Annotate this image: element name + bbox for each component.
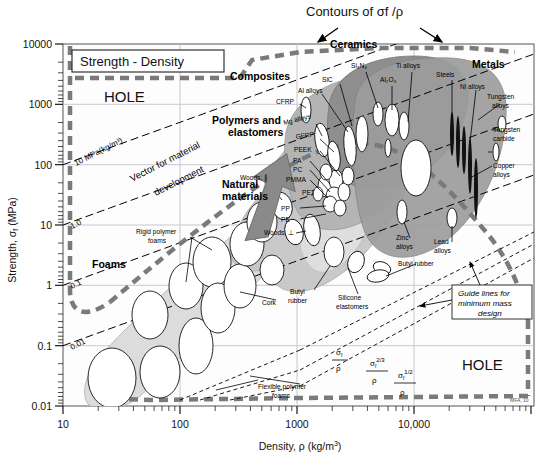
ytick-1: 1: [46, 279, 52, 291]
material-label-ni-alloys: Ni alloys: [460, 83, 486, 91]
material-label-al-alloys: Al alloys: [298, 87, 323, 95]
material-label-concrete: Butyl rubber: [398, 260, 434, 268]
material-label-pa: PA: [293, 157, 302, 164]
material-label-woods-parallel: Woods, ∥: [240, 174, 268, 182]
material-label-flex-foams-l1: Flexible polymer: [258, 383, 307, 391]
ashby-strength-density-chart: Contours of σf /ρ Strength - Density HOL…: [0, 0, 551, 458]
material-label-zinc-l1: Zinc: [396, 234, 409, 241]
material-label-copper-alloys-l1: Copper: [493, 162, 515, 170]
material-label-silicone-l1: Silicone: [338, 294, 361, 301]
material-label-pp: PP: [281, 205, 290, 212]
material-label-si3n4: Si₃N₄: [351, 62, 367, 69]
chart-title-box: Strength - Density: [72, 50, 224, 72]
family-label-foams: Foams: [92, 258, 126, 270]
material-label-silicone-l2: elastomers: [336, 303, 369, 310]
svg-text:Guide lines for: Guide lines for: [458, 289, 510, 298]
ytick-1000: 1000: [29, 98, 53, 110]
svg-text:minimum mass: minimum mass: [458, 299, 512, 308]
ytick-100: 100: [34, 159, 52, 171]
material-label-sic: SiC: [322, 76, 333, 83]
xtick-10: 10: [57, 418, 69, 430]
material-label-flex-foams-l2: foams: [272, 392, 291, 399]
material-label-rigid-foams-l2: foams: [148, 237, 167, 244]
material-label-rigid-foams-l1: Rigid polymer: [136, 228, 177, 236]
material-label-cfrp: CFRP: [276, 98, 295, 105]
family-label-metals: Metals: [472, 58, 505, 70]
family-label-natural-line2: materials: [222, 190, 268, 202]
material-label-cork: Cork: [262, 299, 277, 306]
chart-credit: MFA, 10: [510, 397, 529, 403]
family-label-ceramics: Ceramics: [330, 38, 377, 50]
y-axis-label: Strength, σf (MPa): [6, 197, 19, 282]
material-label-copper-alloys-l2: alloys: [493, 171, 511, 179]
material-label-lead-l2: alloys: [434, 247, 452, 255]
material-label-pmma: PMMA: [286, 176, 306, 183]
material-label-tungsten-alloys-l2: alloys: [492, 102, 510, 110]
material-label-steels: Steels: [436, 71, 455, 78]
material-label-pc: PC: [293, 166, 302, 173]
material-label-tungsten-carbide-l1: Tungsten: [493, 126, 521, 134]
page-title: Strength - Density: [80, 54, 185, 69]
xtick-10000: 10,000: [398, 418, 430, 430]
material-label-butyl-l1: Butyl: [290, 288, 305, 296]
material-label-peek: PEEK: [294, 146, 312, 153]
contours-caption: Contours of σf /ρ: [306, 4, 403, 19]
material-label-tungsten-alloys-l1: Tungsten: [487, 93, 515, 101]
hole-label-upper-left: HOLE: [104, 88, 145, 105]
material-label-ti-alloys: Ti alloys: [396, 62, 421, 70]
hole-label-lower-right: HOLE: [462, 356, 503, 373]
chart-svg: Contours of σf /ρ Strength - Density HOL…: [0, 0, 551, 458]
family-label-polymers-line2: elastomers: [228, 126, 284, 138]
material-label-tungsten-carbide-l2: carbide: [493, 135, 515, 142]
ytick-0-01: 0.01: [32, 400, 53, 412]
family-label-composites: Composites: [230, 70, 290, 82]
material-label-pe: PE: [281, 216, 290, 223]
svg-text:ρ: ρ: [336, 364, 341, 373]
material-label-lead-l1: Lead: [434, 238, 449, 245]
material-label-al2o3: Al₂O₃: [380, 76, 397, 83]
svg-text:ρ: ρ: [372, 376, 377, 385]
material-label-pet: PET: [302, 189, 315, 196]
ytick-0-1: 0.1: [37, 340, 52, 352]
svg-text:design: design: [478, 309, 502, 318]
x-axis-label: Density, ρ (kg/m3): [259, 440, 342, 452]
svg-text:ρ: ρ: [400, 388, 405, 397]
xtick-100: 100: [171, 418, 189, 430]
family-label-polymers-line1: Polymers and: [212, 114, 281, 126]
ytick-10: 10: [40, 219, 52, 231]
ytick-10000: 10000: [23, 38, 52, 50]
xtick-1000: 1000: [285, 418, 309, 430]
material-label-butyl-l2: rubber: [288, 297, 308, 304]
material-label-woods-perp: Woods, ⊥: [264, 229, 294, 236]
material-label-zinc-l2: alloys: [396, 243, 414, 251]
